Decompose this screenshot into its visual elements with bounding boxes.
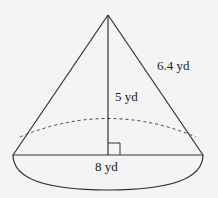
right-angle-marker bbox=[108, 143, 120, 155]
right-slant-edge bbox=[108, 15, 203, 155]
cone-diagram: 6.4 yd 5 yd 8 yd bbox=[0, 0, 218, 198]
slant-height-label: 6.4 yd bbox=[157, 58, 190, 74]
height-label: 5 yd bbox=[115, 89, 138, 105]
diameter-label: 8 yd bbox=[95, 159, 118, 175]
